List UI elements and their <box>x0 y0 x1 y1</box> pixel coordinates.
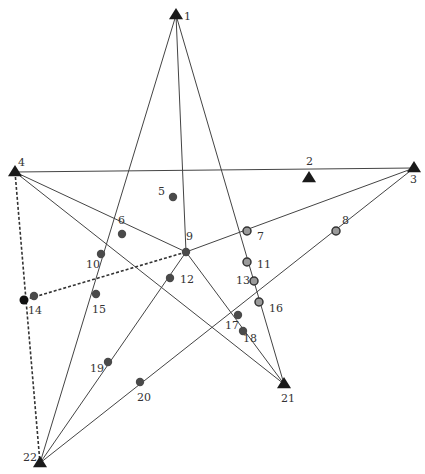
triangle-node-icon <box>277 377 291 388</box>
diagram-canvas: 12342122567891011121314151617181920 <box>0 0 425 474</box>
node-label: 5 <box>158 185 165 198</box>
triangle-node-icon <box>169 8 183 19</box>
node-label: 9 <box>186 230 193 243</box>
node-label: 14 <box>28 304 42 317</box>
point-node-icon <box>250 277 258 285</box>
node-label: 19 <box>90 362 104 375</box>
node-label: 17 <box>225 319 239 332</box>
edge <box>186 168 414 252</box>
point-node-icon <box>104 358 112 366</box>
point-node-icon <box>92 290 100 298</box>
point-node-icon <box>182 248 190 256</box>
point-node-icon <box>332 227 340 235</box>
edge <box>15 168 414 172</box>
node-label: 20 <box>137 391 151 404</box>
node-label: 18 <box>243 332 257 345</box>
node-label: 1 <box>184 10 191 23</box>
node-label: 11 <box>257 258 271 271</box>
point-node-icon <box>166 274 174 282</box>
node-label: 15 <box>92 303 106 316</box>
point-node-icon <box>169 193 177 201</box>
node-label: 6 <box>118 214 125 227</box>
node-label: 8 <box>342 214 349 227</box>
node-label: 7 <box>257 230 264 243</box>
node-label: 3 <box>410 173 417 186</box>
node-label: 12 <box>180 273 194 286</box>
node-label: 22 <box>23 451 37 464</box>
point-node-icon <box>234 311 242 319</box>
point-node-icon <box>255 298 263 306</box>
network-graph: 12342122567891011121314151617181920 <box>0 0 425 474</box>
point-node-icon <box>118 230 126 238</box>
dashed-edge <box>15 172 40 463</box>
edge <box>40 252 186 463</box>
node-label: 21 <box>281 392 295 405</box>
node-label: 4 <box>18 156 25 169</box>
point-node-icon <box>243 227 251 235</box>
node-label: 16 <box>269 302 283 315</box>
labels-layer: 12342122567891011121314151617181920 <box>18 10 417 464</box>
point-node-icon <box>30 292 38 300</box>
edges-layer <box>15 15 414 463</box>
nodes-layer <box>8 8 421 467</box>
node-label: 2 <box>306 155 313 168</box>
triangle-node-icon <box>407 161 421 172</box>
edge <box>40 15 176 463</box>
node-label: 13 <box>236 274 250 287</box>
triangle-node-icon <box>302 171 316 182</box>
point-node-icon <box>97 250 105 258</box>
point-node-icon <box>136 378 144 386</box>
edge <box>176 15 186 252</box>
point-node-icon <box>243 258 251 266</box>
dashed-edge <box>24 252 186 300</box>
node-label: 10 <box>86 258 100 271</box>
